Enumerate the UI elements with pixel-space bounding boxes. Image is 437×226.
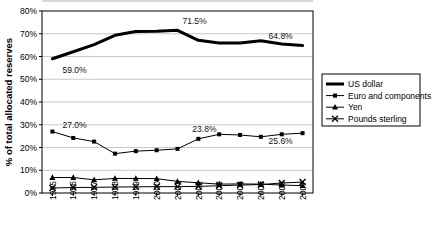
data-labels: 59.0%71.5%64.8%27.0%23.8%25.6%	[62, 16, 293, 146]
data-series	[49, 30, 305, 191]
legend-label-euro-and-components: Euro and components	[348, 91, 431, 101]
y-tick-label-20: 20%	[20, 143, 37, 153]
data-label-25-6: 25.6%	[269, 136, 294, 146]
x-tick-label-2000: 2000	[152, 181, 162, 200]
series-euro-and-components	[50, 130, 304, 156]
y-tick-label-0: 0%	[25, 188, 38, 198]
y-tick-label-10: 10%	[20, 165, 37, 175]
cropped-title-remnant	[42, 0, 313, 2]
point-euro-and-components-2002	[196, 137, 200, 141]
data-label-71-5: 71.5%	[183, 16, 208, 26]
legend-label-us-dollar: US dollar	[348, 79, 383, 89]
point-euro-and-components-1997	[92, 140, 96, 144]
x-tick-label-1999: 1999	[131, 181, 141, 200]
point-euro-and-components-2007	[301, 131, 305, 135]
data-label-59-0: 59.0%	[62, 65, 87, 75]
series-line-us-dollar	[52, 30, 302, 58]
y-tick-label-80: 80%	[20, 6, 37, 16]
chart-container: 0%10%20%30%40%50%60%70%80% 1995199619971…	[0, 0, 437, 226]
series-us-dollar	[52, 30, 302, 58]
title-sliver-group	[42, 0, 313, 2]
point-euro-and-components-1995	[50, 130, 54, 134]
legend-label-yen: Yen	[348, 102, 363, 112]
data-label-23-8: 23.8%	[192, 124, 217, 134]
y-tick-label-50: 50%	[20, 74, 37, 84]
reserves-line-chart: 0%10%20%30%40%50%60%70%80% 1995199619971…	[0, 0, 437, 226]
y-tick-label-40: 40%	[20, 97, 37, 107]
y-axis-title-text: % of total allocated reserves	[3, 38, 14, 166]
point-euro-and-components-2003	[217, 132, 221, 136]
point-euro-and-components-1996	[71, 136, 75, 140]
point-euro-and-components-1999	[134, 149, 138, 153]
y-tick-label-70: 70%	[20, 29, 37, 39]
y-tick-label-30: 30%	[20, 120, 37, 130]
data-label-27-0: 27.0%	[62, 120, 87, 130]
y-axis-title: % of total allocated reserves	[3, 38, 14, 166]
legend-marker-euro-and-components	[333, 94, 337, 98]
point-euro-and-components-2005	[259, 135, 263, 139]
y-tick-label-60: 60%	[20, 52, 37, 62]
y-axis-tick-labels: 0%10%20%30%40%50%60%70%80%	[20, 6, 42, 198]
point-euro-and-components-1998	[113, 152, 117, 156]
data-label-64-8: 64.8%	[269, 31, 294, 41]
legend-label-pounds-sterling: Pounds sterling	[348, 114, 407, 124]
x-tick-label-1996: 1996	[68, 181, 78, 200]
chart-legend: US dollarEuro and componentsYenPounds st…	[322, 74, 431, 126]
point-euro-and-components-2004	[238, 133, 242, 137]
point-euro-and-components-2000	[155, 148, 159, 152]
x-tick-label-1998: 1998	[110, 181, 120, 200]
point-euro-and-components-2001	[176, 147, 180, 151]
x-tick-label-1997: 1997	[89, 181, 99, 200]
